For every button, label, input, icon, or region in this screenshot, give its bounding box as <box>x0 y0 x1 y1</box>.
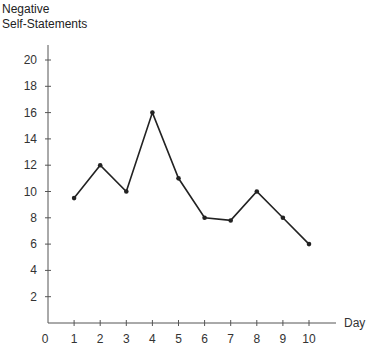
x-axis-ticks: 012345678910 <box>42 320 316 346</box>
x-tick-label: 7 <box>227 332 234 346</box>
x-tick-label: 9 <box>280 332 287 346</box>
x-tick-label: 2 <box>97 332 104 346</box>
y-tick-label: 16 <box>24 106 38 120</box>
data-line <box>74 113 309 245</box>
y-tick-label: 6 <box>30 237 37 251</box>
x-tick-label: 5 <box>175 332 182 346</box>
data-point <box>202 216 207 221</box>
y-tick-label: 10 <box>24 185 38 199</box>
y-tick-label: 2 <box>30 290 37 304</box>
x-tick-label: 6 <box>201 332 208 346</box>
data-point <box>150 110 155 115</box>
data-point <box>124 189 129 194</box>
y-tick-label: 20 <box>24 53 38 67</box>
data-point <box>254 189 259 194</box>
data-points <box>72 110 312 246</box>
x-axis-label: Day <box>344 316 365 330</box>
y-tick-label: 14 <box>24 132 38 146</box>
x-tick-label: 10 <box>302 332 316 346</box>
y-tick-label: 8 <box>30 211 37 225</box>
x-tick-label: 8 <box>253 332 260 346</box>
x-tick-label: 3 <box>123 332 130 346</box>
line-chart: 012345678910 2468101214161820 Day <box>0 0 372 357</box>
data-point <box>281 216 286 221</box>
y-tick-label: 18 <box>24 79 38 93</box>
x-tick-label: 4 <box>149 332 156 346</box>
y-tick-label: 4 <box>30 263 37 277</box>
data-point <box>228 218 233 223</box>
data-point <box>72 196 77 201</box>
y-tick-label: 12 <box>24 158 38 172</box>
data-point <box>176 176 181 181</box>
axes <box>48 45 336 323</box>
data-point <box>98 163 103 168</box>
x-tick-label: 1 <box>71 332 78 346</box>
x-tick-label: 0 <box>42 332 49 346</box>
y-axis-ticks: 2468101214161820 <box>24 53 51 304</box>
data-point <box>307 242 312 247</box>
